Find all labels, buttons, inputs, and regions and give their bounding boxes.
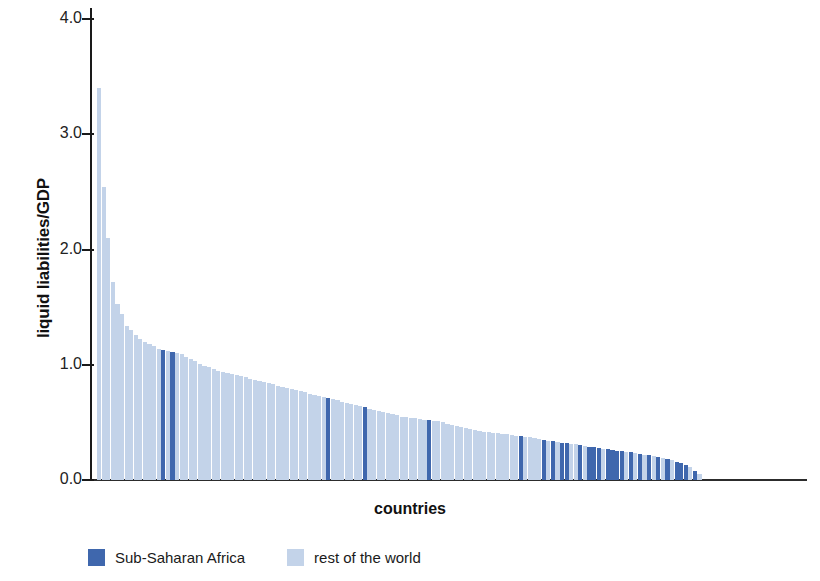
bar	[253, 380, 257, 480]
bar	[290, 389, 294, 480]
bar	[129, 330, 133, 480]
y-tick-label: 0.0	[36, 471, 82, 487]
bar	[413, 418, 417, 480]
bar	[473, 430, 477, 480]
bar	[267, 383, 271, 480]
bar	[670, 460, 674, 480]
bar	[675, 462, 679, 480]
bar	[500, 434, 504, 480]
bar	[294, 390, 298, 480]
bar	[147, 344, 151, 480]
bar	[143, 342, 147, 480]
y-tick-label: 1.0	[36, 356, 82, 372]
bar	[445, 424, 449, 480]
bar	[606, 449, 610, 480]
bar	[615, 451, 619, 480]
bar	[280, 387, 284, 480]
bar	[102, 187, 106, 480]
bar	[120, 314, 124, 480]
bar	[326, 398, 330, 480]
bar	[519, 436, 523, 480]
bar	[207, 367, 211, 480]
bar	[239, 376, 243, 480]
bar	[157, 349, 161, 480]
bar	[312, 395, 316, 480]
bar	[560, 443, 564, 480]
bar	[285, 388, 289, 480]
bar	[271, 384, 275, 480]
legend-label-sub-saharan-africa: Sub-Saharan Africa	[115, 549, 245, 566]
bar	[184, 357, 188, 480]
chart-root: liquid liabilities/GDP 0.01.02.03.04.0 c…	[0, 0, 820, 581]
bar	[340, 402, 344, 480]
bar	[390, 414, 394, 480]
y-axis-line	[90, 8, 92, 481]
bar	[404, 417, 408, 480]
bar	[574, 444, 578, 480]
bar	[212, 369, 216, 480]
bar	[656, 457, 660, 480]
bar	[134, 335, 138, 480]
bar	[620, 451, 624, 480]
legend-swatch-sub-saharan-africa	[88, 549, 105, 566]
bar	[377, 411, 381, 480]
legend-item-sub-saharan-africa: Sub-Saharan Africa	[88, 549, 245, 566]
legend-swatch-rest-of-the-world	[287, 549, 304, 566]
bar	[455, 426, 459, 480]
y-tick-label: 3.0	[36, 125, 82, 141]
bar	[633, 453, 637, 480]
bar	[436, 421, 440, 480]
bar	[468, 429, 472, 480]
bar	[345, 403, 349, 480]
bar	[427, 420, 431, 480]
bar	[381, 412, 385, 480]
bar	[697, 474, 701, 480]
bar	[418, 419, 422, 480]
bar	[244, 377, 248, 480]
bar	[257, 381, 261, 480]
bar	[464, 428, 468, 480]
bar	[532, 438, 536, 480]
bar	[409, 418, 413, 480]
bar	[688, 467, 692, 480]
y-tick-mark	[82, 133, 94, 135]
bar	[487, 432, 491, 480]
bar-series	[95, 8, 810, 480]
bar	[367, 409, 371, 480]
bar	[189, 359, 193, 480]
bar	[422, 420, 426, 481]
bar	[115, 304, 119, 480]
bar	[583, 446, 587, 480]
bar	[308, 394, 312, 480]
bar	[450, 425, 454, 480]
bar	[354, 405, 358, 480]
bar	[216, 371, 220, 480]
bar	[230, 374, 234, 480]
bar	[276, 386, 280, 481]
bar	[363, 407, 367, 480]
bar	[111, 282, 115, 480]
bar	[386, 413, 390, 480]
bar	[592, 447, 596, 480]
bar	[225, 373, 229, 480]
bar	[542, 440, 546, 480]
bar	[482, 432, 486, 480]
bar	[322, 397, 326, 480]
bar	[170, 352, 174, 480]
bar	[638, 454, 642, 480]
bar	[652, 456, 656, 480]
legend-item-rest-of-the-world: rest of the world	[287, 549, 421, 566]
bar	[587, 447, 591, 480]
y-tick-mark	[82, 479, 94, 481]
bar	[175, 353, 179, 480]
bar	[679, 463, 683, 480]
bar	[372, 410, 376, 480]
bar	[629, 452, 633, 480]
y-tick-mark	[82, 18, 94, 20]
bar	[432, 421, 436, 480]
bar	[647, 455, 651, 480]
bar	[601, 449, 605, 480]
bar	[565, 443, 569, 480]
bar	[317, 396, 321, 480]
bar	[299, 391, 303, 480]
